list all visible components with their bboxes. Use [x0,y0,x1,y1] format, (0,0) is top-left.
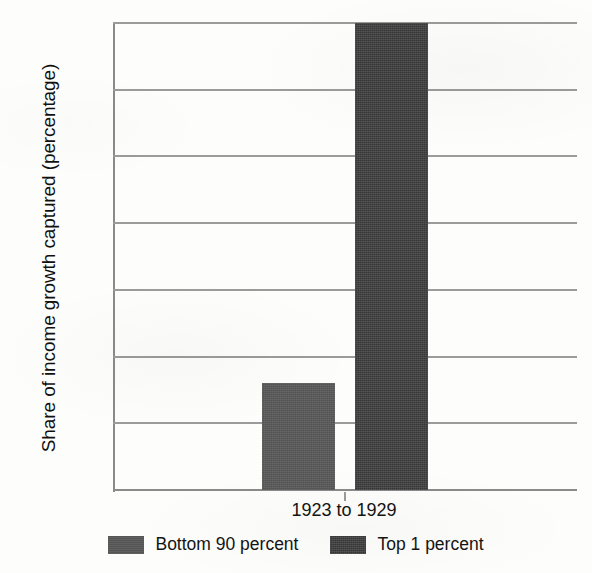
y-axis-title: Share of income growth captured (percent… [38,13,60,503]
plot-area: 10203040506070% [113,23,577,490]
legend-entry-bottom-90-percent[interactable]: Bottom 90 percent [108,534,298,555]
x-axis-category-label: 1923 to 1929 [0,500,592,521]
legend-swatch-icon-bottom-90-percent [108,536,144,554]
gridline-10 [113,422,577,424]
legend-label-top-1-percent: Top 1 percent [377,534,483,555]
bar-top-1-percent[interactable] [355,23,428,490]
legend-entry-top-1-percent[interactable]: Top 1 percent [330,534,483,555]
bar-chart-figure: Share of income growth captured (percent… [0,0,592,573]
legend-label-bottom-90-percent: Bottom 90 percent [155,534,298,555]
gridline-50 [113,155,577,157]
chart-legend: Bottom 90 percent Top 1 percent [0,534,592,555]
bar-bottom-90-percent[interactable] [262,383,335,490]
gridline-60 [113,89,577,91]
gridline-40 [113,222,577,224]
gridline-70 [113,22,577,24]
gridline-30 [113,289,577,291]
x-axis-baseline [113,489,577,491]
gridline-20 [113,356,577,358]
legend-swatch-icon-top-1-percent [330,536,366,554]
